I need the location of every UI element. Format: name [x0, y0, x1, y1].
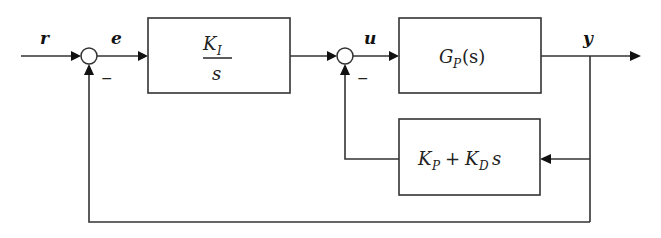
- pd-k1: K: [417, 148, 433, 169]
- integrator-numerator-sub: I: [216, 44, 222, 58]
- summing-junction-1: [81, 48, 97, 64]
- minus-sign-2: −: [357, 70, 369, 86]
- pd-feedback-block: K P + K D s: [399, 119, 540, 195]
- arrow-head-icon: [630, 51, 641, 61]
- pd-k1-sub: P: [431, 159, 441, 173]
- arrow-head-icon: [71, 51, 81, 61]
- arrow-head-icon: [327, 51, 337, 61]
- control-signal-u: u: [353, 28, 399, 61]
- minus-sign-1: −: [101, 70, 113, 86]
- pd-var: s: [492, 148, 501, 169]
- label-e: e: [111, 28, 122, 48]
- label-y: y: [582, 28, 594, 48]
- arrow-head-icon: [340, 64, 350, 75]
- label-u: u: [364, 28, 376, 48]
- label-r: r: [40, 28, 50, 48]
- arrow-head-icon: [138, 51, 148, 61]
- pd-k2: K: [464, 148, 480, 169]
- summing-junction-2: [337, 48, 353, 64]
- integrator-numerator: K: [202, 33, 218, 54]
- arrow-head-icon: [389, 51, 399, 61]
- integrator-denominator: s: [212, 63, 221, 84]
- plant-arg: (s): [462, 46, 485, 67]
- inner-feedback-return-line: [345, 74, 399, 159]
- arrow-head-icon: [84, 64, 94, 75]
- output-signal-y: y: [541, 28, 641, 61]
- input-signal-r: r: [21, 28, 81, 61]
- block-diagram: r − e K I s − u G P (s) y: [0, 0, 661, 238]
- plant-block: G P (s): [399, 18, 541, 93]
- pd-plus: +: [445, 148, 460, 169]
- integrator-block: K I s: [148, 18, 290, 93]
- pd-k2-sub: D: [478, 159, 489, 173]
- plant-main: G: [439, 46, 453, 67]
- arrow-head-icon: [540, 154, 551, 164]
- plant-sub: P: [452, 57, 462, 71]
- error-signal-e: e: [97, 28, 148, 61]
